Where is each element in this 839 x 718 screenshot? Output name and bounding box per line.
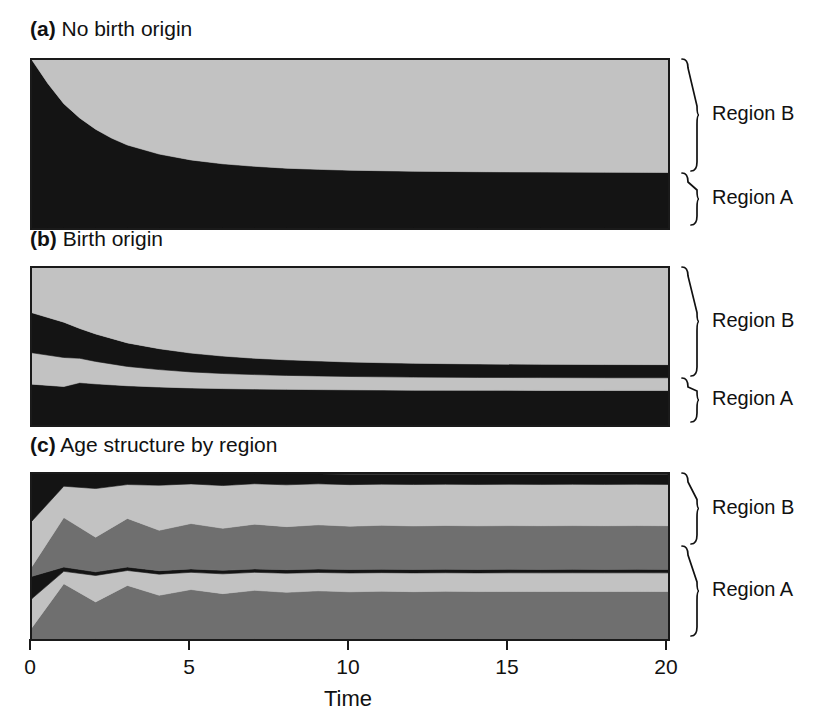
brace-path bbox=[682, 59, 699, 171]
brace-region-a-c bbox=[678, 545, 700, 637]
panel-title-a: (a) No birth origin bbox=[30, 18, 192, 39]
x-tick-label-5: 5 bbox=[183, 655, 195, 679]
brace-path bbox=[682, 173, 699, 225]
x-tick-label-20: 20 bbox=[654, 655, 677, 679]
brace-path bbox=[682, 378, 699, 422]
figure-root: (a) No birth origin (b) Birth origin (c)… bbox=[0, 0, 839, 718]
brace-path bbox=[682, 267, 699, 376]
brace-region-a-a bbox=[678, 172, 700, 226]
region-a-label-c: Region A bbox=[712, 578, 793, 601]
panel-title-text-b: Birth origin bbox=[63, 227, 163, 250]
brace-region-a-b bbox=[678, 377, 700, 423]
brace-path bbox=[682, 546, 699, 636]
brace-region-b-a bbox=[678, 58, 700, 172]
stacked-area-a bbox=[32, 60, 668, 228]
x-tick-20 bbox=[665, 639, 667, 650]
brace-region-b-c bbox=[678, 472, 700, 545]
stacked-area-c bbox=[32, 474, 668, 639]
panel-title-text-c: Age structure by region bbox=[60, 433, 277, 456]
x-tick-label-15: 15 bbox=[495, 655, 518, 679]
panel-tag-b: (b) bbox=[30, 227, 57, 250]
plot-area-c bbox=[30, 472, 670, 641]
stacked-area-b bbox=[32, 268, 668, 425]
x-tick-label-10: 10 bbox=[336, 655, 359, 679]
x-axis-title: Time bbox=[324, 686, 372, 712]
panel-title-b: (b) Birth origin bbox=[30, 228, 163, 249]
x-tick-label-0: 0 bbox=[24, 655, 36, 679]
region-a-label-b: Region A bbox=[712, 387, 793, 410]
brace-region-b-b bbox=[678, 266, 700, 377]
panel-tag-a: (a) bbox=[30, 17, 56, 40]
region-a-label-a: Region A bbox=[712, 186, 793, 209]
panel-title-c: (c) Age structure by region bbox=[30, 434, 277, 455]
plot-area-b bbox=[30, 266, 670, 427]
brace-path bbox=[682, 473, 699, 544]
x-tick-10 bbox=[347, 639, 349, 650]
x-tick-15 bbox=[506, 639, 508, 650]
panel-title-text-a: No birth origin bbox=[62, 17, 193, 40]
panel-tag-c: (c) bbox=[30, 433, 56, 456]
region-b-label-a: Region B bbox=[712, 102, 794, 125]
x-tick-5 bbox=[188, 639, 190, 650]
plot-area-a bbox=[30, 58, 670, 230]
region-b-label-b: Region B bbox=[712, 309, 794, 332]
x-tick-0 bbox=[29, 639, 31, 650]
region-b-label-c: Region B bbox=[712, 496, 794, 519]
